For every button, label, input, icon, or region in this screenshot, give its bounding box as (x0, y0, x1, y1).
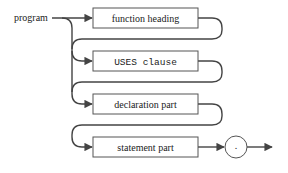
box-declaration-part: declaration part (93, 94, 198, 114)
box-uses-clause: USES clause (93, 51, 198, 71)
box-label: function heading (112, 13, 179, 24)
box-label: USES clause (114, 57, 177, 68)
syntax-diagram: program function heading USES clause dec… (0, 0, 288, 173)
terminal-symbol: . (235, 140, 238, 151)
terminal-period: . (225, 136, 247, 158)
box-statement-part: statement part (93, 137, 198, 157)
box-label: declaration part (114, 99, 177, 110)
connectors (52, 18, 272, 147)
box-function-heading: function heading (93, 8, 198, 28)
box-label: statement part (117, 142, 174, 153)
start-label: program (14, 12, 48, 23)
